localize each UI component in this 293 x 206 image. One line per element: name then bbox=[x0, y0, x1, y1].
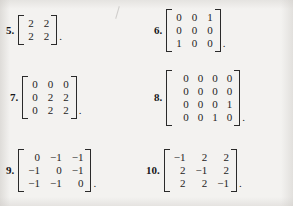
matrix-cell: −1 bbox=[40, 177, 62, 190]
matrix-cell: −1 bbox=[62, 164, 84, 177]
matrix-table: 0 0 1 0 0 0 1 0 0 bbox=[174, 11, 213, 50]
right-bracket-icon bbox=[234, 70, 240, 126]
exercise-item: 8. 0 0 0 0 0 0 0 bbox=[140, 60, 293, 135]
matrix-cell: 2 bbox=[38, 91, 54, 104]
exercise-grid: 5. 2 2 2 2 . bbox=[0, 0, 293, 206]
right-bracket-icon bbox=[215, 9, 221, 52]
left-bracket-icon bbox=[164, 149, 170, 192]
matrix-cell: −1 bbox=[26, 177, 40, 190]
exercise-number: 9. bbox=[6, 165, 18, 176]
exercise-number: 6. bbox=[154, 25, 166, 36]
matrix-cell: 0 bbox=[203, 72, 218, 85]
exercise-item: 7. 0 0 0 0 2 2 bbox=[0, 60, 140, 135]
matrix-body: 0 −1 −1 −1 0 −1 −1 −1 0 bbox=[18, 149, 91, 192]
matrix-cell: 2 bbox=[34, 30, 50, 43]
matrix-cell: 0 bbox=[218, 72, 233, 85]
exercise-number: 5. bbox=[6, 25, 18, 36]
trailing-period: . bbox=[240, 111, 245, 126]
matrix-cell: 0 bbox=[38, 78, 54, 91]
matrix: 2 2 2 2 . bbox=[18, 15, 62, 45]
matrix-cell: 0 bbox=[182, 11, 198, 24]
matrix-row: 0 0 0 bbox=[174, 24, 213, 37]
matrix-cell: 0 bbox=[30, 91, 38, 104]
matrix-cell: 2 bbox=[207, 164, 229, 177]
matrix-cell: 0 bbox=[203, 98, 218, 111]
trailing-period: . bbox=[237, 177, 242, 192]
left-bracket-icon bbox=[22, 76, 28, 119]
matrix-cell: 2 bbox=[34, 17, 50, 30]
matrix-row: −1 −1 0 bbox=[26, 177, 83, 190]
matrix-table: 2 2 2 2 bbox=[26, 17, 49, 43]
matrix: 0 0 0 0 0 0 0 0 0 0 bbox=[166, 70, 245, 126]
matrix-cell: 0 bbox=[174, 85, 189, 98]
matrix-cell: −1 bbox=[26, 164, 40, 177]
matrix-cell: 0 bbox=[174, 98, 189, 111]
exercise-item: 10. −1 2 2 2 −1 2 bbox=[140, 135, 293, 206]
matrix-cell: 0 bbox=[40, 164, 62, 177]
exercise-number: 8. bbox=[154, 92, 166, 103]
matrix-row: 0 2 2 bbox=[30, 104, 69, 117]
matrix-cell: 0 bbox=[197, 37, 213, 50]
matrix-row: 0 0 0 0 bbox=[174, 72, 232, 85]
matrix-table: 0 0 0 0 2 2 0 2 2 bbox=[30, 78, 69, 117]
matrix-cell: −1 bbox=[207, 177, 229, 190]
exercise-number: 7. bbox=[10, 92, 22, 103]
matrix-cell: 0 bbox=[218, 111, 233, 124]
matrix-body: 0 0 0 0 2 2 0 2 2 bbox=[22, 76, 77, 119]
exercise-item: 6. 0 0 1 0 0 0 bbox=[140, 0, 293, 60]
matrix-cell: 1 bbox=[203, 111, 218, 124]
matrix-cell: 0 bbox=[182, 37, 198, 50]
matrix-row: −1 0 −1 bbox=[26, 164, 83, 177]
document-page: 5. 2 2 2 2 . bbox=[0, 0, 293, 206]
matrix-cell: 0 bbox=[30, 104, 38, 117]
matrix-row: 2 2 −1 bbox=[172, 177, 229, 190]
matrix-row: 0 0 0 1 bbox=[174, 98, 232, 111]
matrix-row: 0 0 1 bbox=[174, 11, 213, 24]
trailing-period: . bbox=[221, 37, 226, 52]
matrix-row: −1 2 2 bbox=[172, 151, 229, 164]
left-bracket-icon bbox=[166, 70, 172, 126]
matrix-cell: 2 bbox=[172, 164, 186, 177]
matrix-row: 0 0 0 bbox=[30, 78, 69, 91]
matrix-cell: 1 bbox=[218, 98, 233, 111]
matrix-body: 0 0 1 0 0 0 1 0 0 bbox=[166, 9, 221, 52]
matrix-body: 2 2 2 2 bbox=[18, 15, 57, 45]
matrix: −1 2 2 2 −1 2 2 2 −1 bbox=[164, 149, 242, 192]
matrix: 0 0 0 0 2 2 0 2 2 bbox=[22, 76, 81, 119]
matrix: 0 −1 −1 −1 0 −1 −1 −1 0 bbox=[18, 149, 96, 192]
matrix-table: 0 −1 −1 −1 0 −1 −1 −1 0 bbox=[26, 151, 83, 190]
matrix-cell: −1 bbox=[172, 151, 186, 164]
matrix-cell: 0 bbox=[189, 72, 204, 85]
matrix-cell: 2 bbox=[38, 104, 54, 117]
matrix-row: 0 2 2 bbox=[30, 91, 69, 104]
matrix-cell: 2 bbox=[172, 177, 186, 190]
matrix-cell: 2 bbox=[185, 151, 207, 164]
matrix-row: 0 −1 −1 bbox=[26, 151, 83, 164]
matrix-cell: 0 bbox=[189, 111, 204, 124]
matrix-row: 2 2 bbox=[26, 30, 49, 43]
matrix-cell: 0 bbox=[197, 24, 213, 37]
matrix-row: 1 0 0 bbox=[174, 37, 213, 50]
matrix-cell: 0 bbox=[174, 11, 182, 24]
matrix-cell: −1 bbox=[185, 164, 207, 177]
matrix-cell: 0 bbox=[189, 85, 204, 98]
trailing-period: . bbox=[91, 177, 96, 192]
matrix-row: 0 0 1 0 bbox=[174, 111, 232, 124]
left-bracket-icon bbox=[166, 9, 172, 52]
matrix-cell: 0 bbox=[174, 111, 189, 124]
matrix-row: 2 2 bbox=[26, 17, 49, 30]
exercise-number: 10. bbox=[146, 165, 164, 176]
matrix: 0 0 1 0 0 0 1 0 0 bbox=[166, 9, 225, 52]
matrix-cell: 2 bbox=[26, 30, 34, 43]
matrix-cell: 0 bbox=[218, 85, 233, 98]
trailing-period: . bbox=[57, 30, 62, 45]
right-bracket-icon bbox=[85, 149, 91, 192]
matrix-table: 0 0 0 0 0 0 0 0 0 0 bbox=[174, 72, 232, 124]
matrix-cell: 0 bbox=[189, 98, 204, 111]
matrix-row: 0 0 0 0 bbox=[174, 85, 232, 98]
left-bracket-icon bbox=[18, 149, 24, 192]
right-bracket-icon bbox=[51, 15, 57, 45]
matrix-cell: 0 bbox=[30, 78, 38, 91]
left-bracket-icon bbox=[18, 15, 24, 45]
matrix-row: 2 −1 2 bbox=[172, 164, 229, 177]
